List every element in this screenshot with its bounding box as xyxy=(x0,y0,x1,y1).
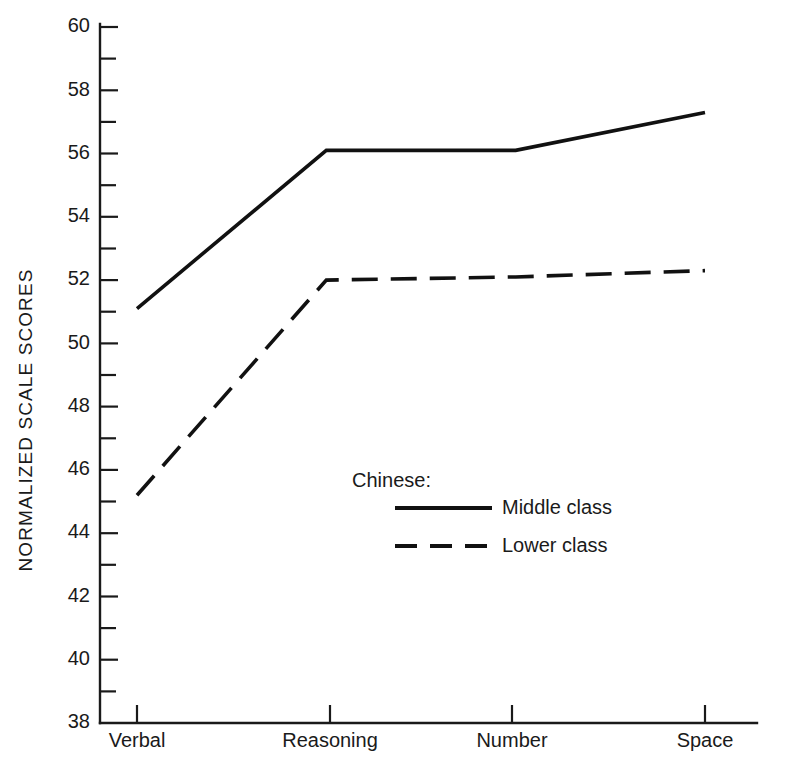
x-tick-label-verbal: Verbal xyxy=(109,729,166,751)
y-tick-label-60: 60 xyxy=(68,14,90,36)
x-tick-label-number: Number xyxy=(476,729,547,751)
y-tick-label-42: 42 xyxy=(68,584,90,606)
chart-figure: 60 58 56 54 52 50 48 46 44 xyxy=(0,0,790,774)
legend-label-middle-class: Middle class xyxy=(502,496,612,518)
x-axis-ticks: Verbal Reasoning Number Space xyxy=(109,705,734,751)
legend-label-lower-class: Lower class xyxy=(502,534,608,556)
y-tick-label-44: 44 xyxy=(68,520,90,542)
series-line-lower-class xyxy=(137,271,705,496)
y-tick-label-46: 46 xyxy=(68,457,90,479)
y-axis-ticks: 60 58 56 54 52 50 48 46 44 xyxy=(68,14,118,732)
line-chart: 60 58 56 54 52 50 48 46 44 xyxy=(0,0,790,774)
y-tick-label-58: 58 xyxy=(68,78,90,100)
chart-legend: Chinese: Middle class Lower class xyxy=(352,469,612,556)
y-tick-label-50: 50 xyxy=(68,331,90,353)
y-axis-title: NORMALIZED SCALE SCORES xyxy=(15,269,36,572)
y-tick-label-38: 38 xyxy=(68,710,90,732)
legend-title: Chinese: xyxy=(352,469,431,491)
y-tick-label-56: 56 xyxy=(68,141,90,163)
series-line-middle-class xyxy=(137,112,705,308)
y-tick-label-54: 54 xyxy=(68,204,90,226)
y-tick-label-52: 52 xyxy=(68,267,90,289)
x-tick-label-reasoning: Reasoning xyxy=(282,729,378,751)
y-tick-label-48: 48 xyxy=(68,394,90,416)
y-tick-label-40: 40 xyxy=(68,647,90,669)
x-tick-label-space: Space xyxy=(677,729,734,751)
